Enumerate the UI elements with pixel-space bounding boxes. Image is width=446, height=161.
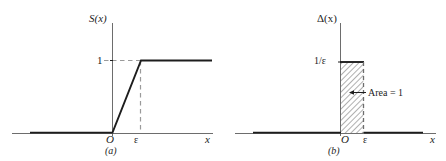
hatched-area-rectangle (341, 62, 364, 133)
x-tick-label-epsilon-a: ε (134, 135, 138, 145)
x-axis-label-b: x (430, 134, 435, 145)
y-tick-label-one-a: 1 (97, 55, 103, 66)
panel-caption-b: (b) (328, 146, 340, 156)
y-tick-label-height-b: 1/ε (314, 56, 326, 66)
panel-caption-a: (a) (105, 146, 117, 156)
figure-root: S(x) 1 O ε x (a) (0, 0, 446, 161)
x-tick-label-epsilon-b: ε (363, 135, 367, 145)
y-axis-label-a: S(x) (89, 13, 107, 24)
y-axis-label-b: Δ(x) (317, 13, 337, 24)
area-annotation-label: Area = 1 (368, 88, 403, 98)
panel-b-plot (223, 0, 446, 161)
origin-label-a: O (106, 134, 114, 145)
panel-b-delta-function: Δ(x) 1/ε Area = 1 O ε x (b) (223, 0, 446, 161)
x-axis-label-a: x (205, 134, 210, 145)
panel-a-step-function: S(x) 1 O ε x (a) (0, 0, 223, 161)
curve-step-function (30, 61, 212, 133)
origin-label-b: O (341, 134, 349, 145)
